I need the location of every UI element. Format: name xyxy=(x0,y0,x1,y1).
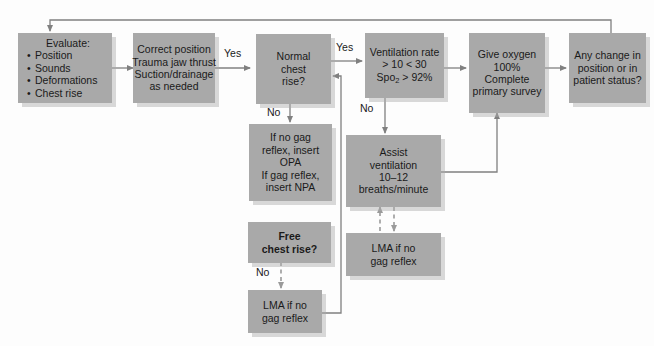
node-free-chest-rise[interactable]: Free chest rise? xyxy=(248,222,331,263)
node-evaluate-heading: Evaluate: xyxy=(27,37,109,49)
edge-label-yes-normal-chest-rise: Yes xyxy=(336,41,353,53)
node-evaluate-bullet-position: Position xyxy=(27,49,72,61)
connector-assist-ventilation-to-give-oxygen xyxy=(441,113,497,172)
node-correct-position-line-1: Correct position xyxy=(137,43,211,55)
edge-label-yes-correct-position: Yes xyxy=(224,47,241,59)
connector-feedback-loop xyxy=(50,20,611,33)
node-evaluate-bullet-deformations: Deformations xyxy=(27,74,97,86)
node-normal-chest-rise-line-1: Normal xyxy=(277,50,311,62)
spo2-label: Spo xyxy=(377,71,396,83)
node-any-change[interactable]: Any change in position or in patient sta… xyxy=(569,33,646,103)
node-lma-right-line-1: LMA if no xyxy=(372,242,416,254)
node-lma-bottom-line-1: LMA if no xyxy=(263,299,307,311)
node-airway-adjunct-line-4: If gag reflex, xyxy=(262,169,320,181)
node-correct-position-line-2: Trauma jaw thrust xyxy=(132,56,216,68)
node-correct-position[interactable]: Correct position Trauma jaw thrust Sucti… xyxy=(133,33,215,103)
node-ventilation-rate-spo2: Spo2 > 92% xyxy=(377,71,433,85)
node-ventilation-rate-line-1: Ventilation rate xyxy=(370,46,439,58)
node-assist-ventilation-line-1: Assist xyxy=(379,146,407,158)
node-correct-position-line-3: Suction/drainage xyxy=(135,68,214,80)
node-ventilation-rate[interactable]: Ventilation rate > 10 < 30 Spo2 > 92% xyxy=(365,33,444,98)
spo2-subscript: 2 xyxy=(395,76,399,85)
edge-label-no-ventilation-rate: No xyxy=(360,102,373,114)
node-normal-chest-rise-line-3: rise? xyxy=(282,75,305,87)
node-free-chest-rise-line-1: Free xyxy=(278,230,300,242)
edge-label-no-normal-chest-rise: No xyxy=(267,106,280,118)
node-airway-adjunct-line-3: OPA xyxy=(280,156,301,168)
node-assist-ventilation-line-3: 10–12 xyxy=(379,171,408,183)
node-correct-position-line-4: as needed xyxy=(149,80,198,92)
airway-ventilation-flowchart: Evaluate: Position Sounds Deformations C… xyxy=(0,0,654,346)
node-airway-adjunct[interactable]: If no gag reflex, insert OPA If gag refl… xyxy=(249,124,332,201)
node-evaluate-bullet-sounds: Sounds xyxy=(27,62,71,74)
node-give-oxygen-line-3: Complete xyxy=(485,73,530,85)
node-lma-right[interactable]: LMA if no gag reflex xyxy=(346,233,441,276)
spo2-value: > 92% xyxy=(402,71,432,83)
node-lma-bottom[interactable]: LMA if no gag reflex xyxy=(248,290,322,333)
node-ventilation-rate-line-2: > 10 < 30 xyxy=(382,58,426,70)
node-any-change-line-1: Any change in xyxy=(574,49,641,61)
node-assist-ventilation-line-4: breaths/minute xyxy=(359,183,428,195)
node-any-change-line-3: patient status? xyxy=(573,74,641,86)
node-normal-chest-rise[interactable]: Normal chest rise? xyxy=(256,34,331,104)
node-give-oxygen-line-2: 100% xyxy=(494,61,521,73)
node-airway-adjunct-line-2: reflex, insert xyxy=(262,144,319,156)
node-evaluate[interactable]: Evaluate: Position Sounds Deformations C… xyxy=(18,33,112,103)
node-give-oxygen-line-4: primary survey xyxy=(473,85,542,97)
node-assist-ventilation-line-2: ventilation xyxy=(370,159,417,171)
node-lma-right-line-2: gag reflex xyxy=(370,255,416,267)
node-free-chest-rise-line-2: chest rise? xyxy=(262,243,317,255)
node-any-change-line-2: position or in xyxy=(578,62,638,74)
node-airway-adjunct-line-5: insert NPA xyxy=(266,181,315,193)
node-normal-chest-rise-line-2: chest xyxy=(281,63,306,75)
edge-label-no-free-chest-rise: No xyxy=(256,266,269,278)
node-airway-adjunct-line-1: If no gag xyxy=(270,131,311,143)
node-evaluate-bullet-chest-rise: Chest rise xyxy=(27,87,82,99)
node-lma-bottom-line-2: gag reflex xyxy=(262,312,308,324)
node-assist-ventilation[interactable]: Assist ventilation 10–12 breaths/minute xyxy=(346,135,441,207)
node-give-oxygen-line-1: Give oxygen xyxy=(478,48,536,60)
node-give-oxygen[interactable]: Give oxygen 100% Complete primary survey xyxy=(469,33,545,113)
